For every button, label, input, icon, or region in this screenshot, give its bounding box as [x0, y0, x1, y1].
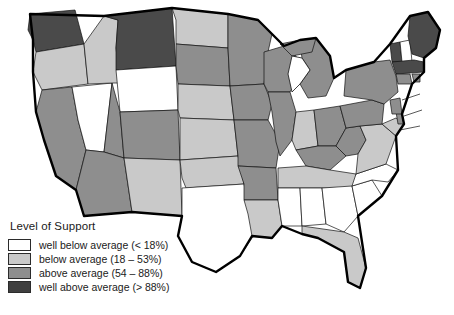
legend-label-above-average: above average (54 – 88%) [39, 267, 163, 279]
map-legend: Level of Support well below average (< 1… [8, 220, 218, 294]
state-NE[interactable] [178, 84, 234, 120]
legend-item-above-average[interactable]: above average (54 – 88%) [8, 266, 218, 280]
state-CT[interactable] [396, 74, 412, 84]
cropped-caption-text [10, 305, 440, 315]
state-OK[interactable] [180, 156, 244, 188]
legend-item-well-above-average[interactable]: well above average (> 88%) [8, 280, 218, 294]
state-CO[interactable] [120, 110, 180, 160]
state-GA[interactable] [322, 186, 358, 232]
state-IN[interactable] [292, 110, 318, 150]
legend-label-well-above-average: well above average (> 88%) [39, 281, 169, 293]
state-WY[interactable] [116, 66, 178, 112]
legend-item-below-average[interactable]: below average (18 – 53%) [8, 252, 218, 266]
state-ID[interactable] [84, 16, 120, 84]
state-SD[interactable] [176, 44, 230, 86]
legend-swatch-above-average [8, 267, 31, 279]
state-MS[interactable] [278, 188, 302, 226]
state-MA[interactable] [392, 60, 424, 74]
state-NY[interactable] [344, 60, 398, 104]
legend-swatch-below-average [8, 253, 31, 265]
legend-label-well-below-average: well below average (< 18%) [39, 239, 168, 251]
legend-title: Level of Support [10, 220, 218, 232]
legend-label-below-average: below average (18 – 53%) [39, 253, 162, 265]
state-KS[interactable] [180, 118, 238, 160]
state-ME[interactable] [408, 12, 440, 58]
state-PA[interactable] [340, 100, 384, 128]
state-AR[interactable] [238, 166, 278, 200]
choropleth-map-figure: Level of Support well below average (< 1… [0, 0, 454, 315]
state-OR[interactable] [33, 44, 88, 90]
state-NM[interactable] [124, 158, 182, 216]
state-MO[interactable] [234, 120, 280, 168]
state-AZ[interactable] [76, 150, 132, 216]
state-IA[interactable] [230, 84, 272, 120]
legend-swatch-well-above-average [8, 281, 31, 293]
leader-line-nj [402, 94, 420, 100]
legend-item-well-below-average[interactable]: well below average (< 18%) [8, 238, 218, 252]
state-NJ[interactable] [390, 98, 402, 114]
state-TN[interactable] [278, 166, 356, 188]
state-AL[interactable] [300, 188, 326, 226]
legend-swatch-well-below-average [8, 239, 31, 251]
leader-line-de [404, 110, 422, 116]
